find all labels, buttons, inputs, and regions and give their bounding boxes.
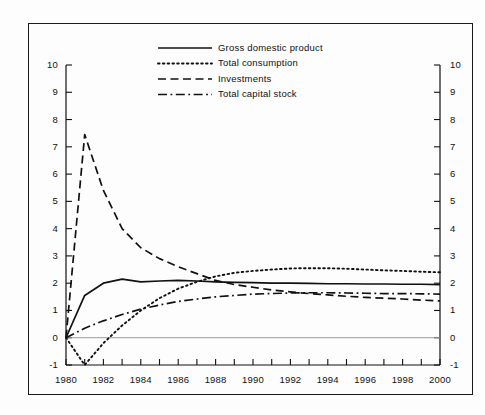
legend-label-1: Total consumption (218, 57, 298, 68)
y-tick-label-right: 5 (450, 195, 485, 206)
series-line-2 (66, 135, 440, 338)
y-tick-label-right: 8 (450, 114, 485, 125)
y-tick-label-left: 10 (18, 59, 58, 70)
y-tick-label-right: 10 (450, 59, 485, 70)
y-tick-label-left: -1 (18, 359, 58, 370)
y-tick-label-right: 4 (450, 223, 485, 234)
y-tick-label-right: -1 (450, 359, 485, 370)
legend-label-2: Investments (218, 73, 271, 84)
y-tick-label-left: 2 (18, 277, 58, 288)
y-tick-label-right: 3 (450, 250, 485, 261)
y-tick-label-right: 2 (450, 277, 485, 288)
y-tick-label-right: 0 (450, 332, 485, 343)
y-tick-label-left: 7 (18, 141, 58, 152)
y-tick-label-right: 6 (450, 168, 485, 179)
y-tick-label-left: 5 (18, 195, 58, 206)
y-tick-label-right: 7 (450, 141, 485, 152)
series-line-3 (66, 293, 440, 338)
chart-figure: -1-1001122334455667788991010198019821984… (0, 0, 485, 415)
legend-label-0: Gross domestic product (218, 42, 323, 53)
y-tick-label-left: 0 (18, 332, 58, 343)
y-tick-label-left: 1 (18, 304, 58, 315)
y-tick-label-left: 6 (18, 168, 58, 179)
y-tick-label-left: 9 (18, 86, 58, 97)
legend-label-3: Total capital stock (218, 88, 297, 99)
y-tick-label-right: 1 (450, 304, 485, 315)
y-tick-label-left: 3 (18, 250, 58, 261)
y-tick-label-left: 4 (18, 223, 58, 234)
x-tick-label: 2000 (418, 374, 462, 385)
y-tick-label-right: 9 (450, 86, 485, 97)
y-tick-label-left: 8 (18, 114, 58, 125)
